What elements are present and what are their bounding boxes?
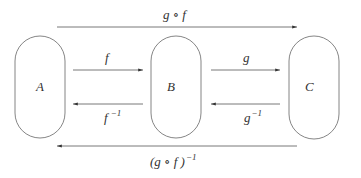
f-label: f	[105, 50, 111, 65]
set-c-label: C	[305, 79, 314, 94]
set-a-label: A	[35, 79, 44, 94]
f-inverse-label: f−1	[104, 108, 121, 125]
g-inverse-label: g−1	[244, 108, 262, 125]
set-b-label: B	[167, 79, 175, 94]
set-c-node	[289, 36, 339, 139]
gof-label: g ∘ f	[163, 7, 188, 22]
gof-inverse-label: (g ∘ f )−1	[150, 152, 196, 169]
function-composition-diagram: A B C g ∘ f f f−1 g g−1 (g ∘ f )−1	[0, 0, 361, 178]
set-b-node	[151, 36, 201, 138]
g-label: g	[243, 50, 250, 65]
